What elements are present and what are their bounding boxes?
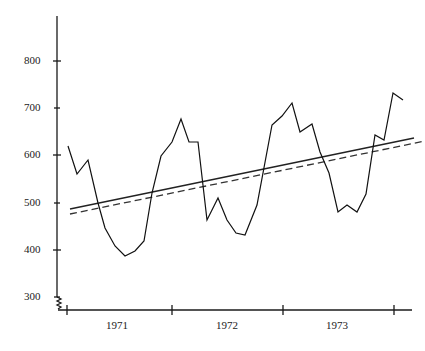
x-tick-labels: 1971 1972 1973 [106,319,349,331]
x-label-1973: 1973 [326,319,349,331]
y-label-300: 300 [24,290,41,302]
axis-break-icon [57,297,61,309]
y-label-400: 400 [24,243,41,255]
y-label-700: 700 [24,101,41,113]
trend-line-solid [70,138,414,209]
y-label-600: 600 [24,148,41,160]
x-label-1972: 1972 [216,319,238,331]
y-tick-labels: 800 700 600 500 400 300 [24,54,41,302]
y-label-500: 500 [24,196,41,208]
x-label-1971: 1971 [106,319,128,331]
trend-line-dashed [70,141,425,214]
y-label-800: 800 [24,54,41,66]
line-chart: 800 700 600 500 400 300 1971 1972 1973 [0,0,425,351]
